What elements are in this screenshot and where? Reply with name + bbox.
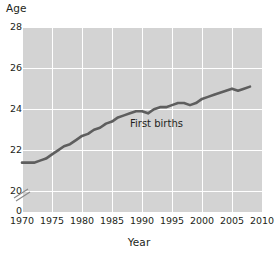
x-axis-tick-label: 1975 — [35, 215, 69, 226]
x-axis-tick-label: 1985 — [95, 215, 129, 226]
series-annotation-first-births: First births — [130, 118, 183, 129]
x-axis-tick-label: 2000 — [185, 215, 219, 226]
x-axis-tick-label: 1970 — [5, 215, 39, 226]
x-axis-tick-label: 1980 — [65, 215, 99, 226]
x-axis-tick-label: 1990 — [125, 215, 159, 226]
x-axis-tick-label: 1995 — [155, 215, 189, 226]
y-axis-tick-label: 22 — [2, 145, 22, 155]
x-axis-title: Year — [0, 236, 278, 248]
x-axis-tick-label: 2005 — [215, 215, 249, 226]
x-axis-tick-label: 2010 — [245, 215, 278, 226]
gridline-vertical — [262, 27, 263, 212]
y-axis-title: Age — [6, 2, 27, 14]
y-axis-tick-label: 24 — [2, 104, 22, 114]
plot-area: First births — [22, 27, 262, 212]
y-axis-tick-label: 26 — [2, 63, 22, 73]
y-axis-tick-label: 28 — [2, 22, 22, 32]
chart-figure: Age First births 20222426280 19701975198… — [0, 0, 278, 254]
axis-break-slashes-icon — [12, 186, 34, 204]
